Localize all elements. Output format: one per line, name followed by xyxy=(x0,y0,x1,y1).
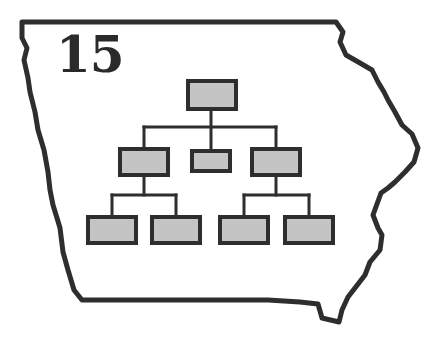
org-chart-nodes xyxy=(88,81,333,243)
org-node-l2-4 xyxy=(285,217,333,243)
org-node-root xyxy=(188,81,236,109)
org-node-l1-center xyxy=(192,151,230,171)
org-node-l2-1 xyxy=(88,217,136,243)
org-node-l2-2 xyxy=(152,217,200,243)
figure-number: 15 xyxy=(56,30,124,80)
org-node-l2-3 xyxy=(220,217,268,243)
org-node-l1-right xyxy=(252,149,300,175)
org-node-l1-left xyxy=(120,149,168,175)
